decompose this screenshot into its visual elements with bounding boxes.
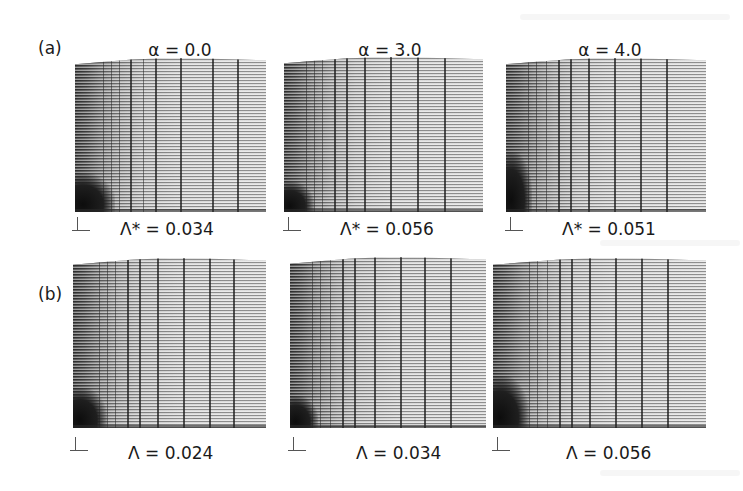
mesh-line	[640, 58, 642, 212]
mesh-line	[641, 258, 643, 428]
mesh-bottom-edge	[506, 209, 706, 212]
mesh-line	[237, 58, 239, 212]
mesh-line	[364, 57, 366, 212]
lambda-label-alpha-0: Λ = 0.024	[128, 443, 298, 463]
mesh-line	[444, 57, 446, 212]
mesh-line	[209, 258, 211, 428]
mesh-localization	[290, 396, 318, 428]
mesh-panel-a-alpha-0	[75, 58, 266, 212]
mesh-line	[212, 58, 214, 212]
bleed-through-texture	[520, 14, 730, 20]
mesh-line	[320, 257, 321, 428]
mesh-line	[424, 257, 426, 428]
mesh-line	[390, 57, 392, 212]
mesh-bottom-edge	[493, 425, 706, 428]
mesh-bottom-edge	[73, 425, 266, 428]
mesh-line	[529, 258, 530, 428]
mesh-panel-b-alpha-4	[493, 258, 706, 428]
mesh-line	[615, 258, 617, 428]
mesh-line	[667, 258, 669, 428]
mesh-line	[119, 58, 120, 212]
mesh-line	[571, 258, 573, 428]
mesh-line	[374, 257, 376, 428]
column-title-alpha-4: α = 4.0	[530, 40, 690, 60]
coordinate-axes-icon	[72, 217, 94, 235]
mesh-bottom-edge	[284, 209, 483, 212]
lambda-label-alpha-4: Λ = 0.056	[566, 443, 736, 463]
mesh-line	[322, 57, 323, 212]
mesh-line	[115, 258, 116, 428]
mesh-line	[570, 58, 572, 212]
mesh-localization	[73, 388, 107, 428]
mesh-line	[233, 258, 235, 428]
mesh-bottom-edge	[290, 425, 486, 428]
bleed-through-texture	[600, 240, 740, 246]
mesh-line	[346, 57, 348, 212]
mesh-line	[536, 58, 537, 212]
mesh-line	[559, 258, 561, 428]
mesh-line	[547, 258, 548, 428]
mesh-line	[130, 58, 132, 212]
mesh-line	[417, 57, 419, 212]
mesh-line	[330, 257, 331, 428]
column-title-alpha-3: α = 3.0	[310, 40, 470, 60]
mesh-localization	[75, 174, 115, 212]
coordinate-axes-icon	[283, 217, 305, 235]
mesh-line	[537, 258, 538, 428]
mesh-line	[139, 258, 141, 428]
coordinate-axes-icon	[70, 437, 92, 455]
lambda-star-label-alpha-3: Λ* = 0.056	[340, 219, 510, 239]
mesh-line	[314, 57, 315, 212]
mesh-line	[546, 58, 547, 212]
mesh-line	[157, 258, 159, 428]
figure: (a) α = 0.0 α = 3.0 α = 4.0	[0, 0, 743, 491]
mesh-localization	[506, 152, 532, 212]
mesh-line	[127, 258, 129, 428]
mesh-line	[143, 58, 144, 212]
mesh-panel-a-alpha-3	[284, 57, 483, 212]
mesh-localization	[284, 182, 314, 212]
mesh-line	[334, 57, 336, 212]
bleed-through-texture	[600, 470, 740, 476]
mesh-line	[400, 257, 402, 428]
mesh-panel-b-alpha-3	[290, 257, 486, 428]
coordinate-axes-icon	[288, 437, 310, 455]
row-label-a: (a)	[38, 38, 62, 58]
mesh-line	[180, 58, 182, 212]
mesh-line	[614, 58, 616, 212]
coordinate-axes-icon	[492, 437, 514, 455]
mesh-line	[589, 258, 591, 428]
mesh-line	[107, 258, 108, 428]
row-label-b: (b)	[38, 284, 62, 304]
mesh-line	[558, 58, 560, 212]
mesh-line	[155, 58, 157, 212]
mesh-localization	[493, 376, 529, 428]
lambda-star-label-alpha-0: Λ* = 0.034	[120, 219, 290, 239]
mesh-line	[342, 257, 344, 428]
coordinate-axes-icon	[505, 217, 527, 235]
mesh-line	[588, 58, 590, 212]
mesh-line	[450, 257, 452, 428]
mesh-bottom-edge	[75, 209, 266, 212]
mesh-line	[666, 58, 668, 212]
mesh-panel-a-alpha-4	[506, 58, 706, 212]
mesh-line	[354, 257, 356, 428]
lambda-star-label-alpha-4: Λ* = 0.051	[562, 219, 732, 239]
mesh-line	[183, 258, 185, 428]
column-title-alpha-0: α = 0.0	[100, 40, 260, 60]
mesh-panel-b-alpha-0	[73, 258, 266, 428]
